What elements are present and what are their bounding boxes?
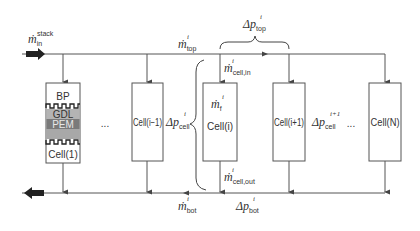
svg-text:i: i: [222, 93, 224, 101]
ellipsis-left: ...: [101, 118, 109, 129]
svg-text:i: i: [184, 110, 186, 118]
cell-1: BP GDL PEM Cell(1): [46, 83, 80, 163]
top-manifold: [22, 52, 385, 57]
stack-flow-diagram: BP GDL PEM Cell(1) ... Cell(i−1) Δpcell …: [0, 0, 420, 231]
svg-text:Δpcell: Δpcell: [165, 115, 190, 130]
cell-n-label: Cell(N): [371, 117, 400, 128]
svg-text:i: i: [187, 33, 189, 41]
cell-1-label: Cell(1): [48, 149, 77, 160]
dp-cell-i1-label: Δpcell i+1: [311, 110, 340, 130]
dp-cell-i-label: Δpcell i: [165, 110, 190, 130]
pem-label: PEM: [52, 119, 74, 130]
cell-n: Cell(N): [369, 83, 401, 161]
svg-text:i: i: [232, 166, 234, 174]
svg-text:Δpbot: Δpbot: [235, 199, 259, 214]
cell-i-minus-1-label: Cell(i−1): [133, 117, 162, 128]
cell-i: ṁf i Cell(i): [203, 83, 237, 161]
svg-text:i: i: [260, 13, 262, 21]
cell-i-plus-1-label: Cell(i+1): [274, 117, 304, 128]
svg-text:ṁcell,out: ṁcell,out: [224, 170, 255, 185]
outlet-arrow-icon: [24, 187, 44, 199]
cell-i-minus-1: Cell(i−1): [132, 83, 163, 161]
svg-text:i: i: [187, 195, 189, 203]
top-flow-label: ṁtop i: [178, 33, 197, 53]
cell-i-plus-1: Cell(i+1): [273, 83, 305, 161]
cell-i-label: Cell(i): [207, 121, 233, 132]
bp-label: BP: [56, 91, 70, 102]
dp-top-label: Δptop i: [242, 13, 266, 33]
inlet-label: ṁin stack: [28, 30, 54, 47]
svg-text:i: i: [253, 195, 255, 203]
top-pressure-brace: [220, 36, 289, 49]
svg-text:i+1: i+1: [330, 110, 340, 118]
cell-out-label: ṁcell,out i: [224, 166, 255, 185]
cell-in-label: ṁcell,in i: [224, 57, 251, 76]
dp-bot-label: Δpbot i: [235, 195, 259, 214]
svg-text:stack: stack: [37, 30, 54, 37]
svg-text:ṁcell,in: ṁcell,in: [224, 61, 251, 76]
svg-text:Δptop: Δptop: [242, 17, 266, 33]
inlet-arrow-icon: [26, 48, 45, 60]
svg-text:i: i: [232, 57, 234, 65]
bottom-manifold: [22, 191, 385, 196]
ellipsis-right: ...: [347, 118, 355, 129]
bottom-flow-label: ṁbot i: [178, 195, 196, 214]
